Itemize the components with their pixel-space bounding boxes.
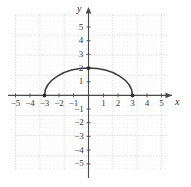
x-tick-label-neg5: −5 — [8, 99, 23, 108]
point-left-endpoint — [43, 94, 47, 98]
graph-figure: −5 −4 −3 −2 −1 1 2 3 4 5 5 4 3 2 1 −1 −2… — [0, 0, 191, 187]
x-tick-label-3: 3 — [128, 99, 137, 108]
y-tick-label-neg2: −2 — [72, 118, 86, 127]
x-axis-label: x — [175, 97, 179, 107]
x-tick-label-2: 2 — [114, 99, 123, 108]
x-tick-label-neg2: −2 — [52, 99, 67, 108]
y-tick-label-neg5: −5 — [72, 159, 86, 168]
grid-minor-dots — [16, 15, 168, 170]
y-tick-label-1: 1 — [76, 77, 86, 86]
coordinate-plane-svg — [0, 0, 191, 187]
x-tick-label-4: 4 — [143, 99, 152, 108]
x-tick-label-1: 1 — [99, 99, 108, 108]
y-tick-label-neg1: −1 — [72, 105, 86, 114]
point-right-endpoint — [131, 94, 135, 98]
y-axis-label: y — [77, 4, 81, 14]
y-tick-label-3: 3 — [76, 50, 86, 59]
x-tick-label-neg3: −3 — [37, 99, 52, 108]
y-tick-label-4: 4 — [76, 36, 86, 45]
y-tick-label-2: 2 — [76, 64, 86, 73]
y-tick-label-neg3: −3 — [72, 132, 86, 141]
y-tick-label-neg4: −4 — [72, 146, 86, 155]
y-tick-label-5: 5 — [76, 23, 86, 32]
point-vertex — [87, 66, 91, 70]
x-tick-label-neg4: −4 — [23, 99, 38, 108]
x-tick-label-5: 5 — [157, 99, 166, 108]
